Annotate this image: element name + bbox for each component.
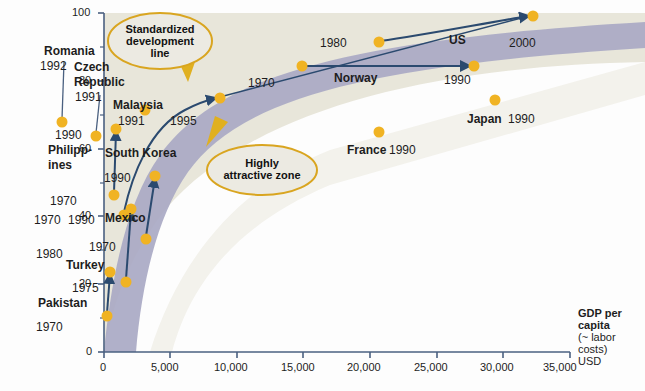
plot-area xyxy=(0,0,645,391)
x-tick-10000: 10,000 xyxy=(214,361,248,373)
label-france: France xyxy=(347,143,386,157)
marker-us-1980 xyxy=(374,37,385,48)
marker-us-2000 xyxy=(528,11,539,22)
x-tick-30000: 30,000 xyxy=(480,361,514,373)
x-axis-title-line3: (~ labor xyxy=(578,331,622,343)
marker-czech-1991 xyxy=(91,131,102,142)
marker-norway-1990 xyxy=(469,61,480,72)
label-czech-year: 1991 xyxy=(75,90,102,104)
marker-mexico-1970 xyxy=(141,234,152,245)
label-malaysia-year: 1991 xyxy=(118,114,145,128)
x-tick-35000: 35,000 xyxy=(543,361,577,373)
label-japan: Japan xyxy=(467,112,502,126)
marker-philippines-1970 xyxy=(109,190,120,201)
x-axis-title-line4: costs) xyxy=(578,343,622,355)
marker-france-1990 xyxy=(374,127,385,138)
marker-mexico-1990 xyxy=(150,171,161,182)
marker-japan-1990 xyxy=(490,95,501,106)
label-mexico-year-1990: 1990 xyxy=(104,171,131,185)
label-philippines-year-1970: 1970 xyxy=(50,194,77,208)
label-turkey: Turkey xyxy=(66,258,104,272)
standardized-callout-line1: Standardized xyxy=(110,23,210,35)
x-tick-15000: 15,000 xyxy=(281,361,315,373)
x-tick-0: 0 xyxy=(100,361,106,373)
standardized-callout-line3: line xyxy=(110,47,210,59)
gdp-vs-index-scatter-chart: 100 80 60 40 20 0 0 5,000 10,000 15,000 … xyxy=(0,0,645,391)
label-malaysia: Malaysia xyxy=(113,98,163,112)
label-norway: Norway xyxy=(334,71,377,85)
y-tick-0: 0 xyxy=(86,345,92,357)
marker-pakistan-1980 xyxy=(105,267,116,278)
label-romania-year: 1992 xyxy=(40,59,67,73)
x-axis-title-line1: GDP per xyxy=(578,307,622,319)
label-south-korea-year-1970: 1970 xyxy=(34,213,61,227)
x-tick-20000: 20,000 xyxy=(347,361,381,373)
label-pakistan: Pakistan xyxy=(38,296,87,310)
label-pakistan-year-1980: 1980 xyxy=(36,247,63,261)
label-norway-year-1990: 1990 xyxy=(444,73,471,87)
highly-attractive-zone-callout: Highly attractive zone xyxy=(209,157,315,181)
label-turkey-year-1975: 1975 xyxy=(72,281,99,295)
label-philippines-line1: Philipp- xyxy=(48,143,92,157)
attractive-callout-line1: Highly xyxy=(209,157,315,169)
attractive-callout-line2: attractive zone xyxy=(209,169,315,181)
label-south-korea: South Korea xyxy=(105,146,176,160)
x-tick-25000: 25,000 xyxy=(414,361,448,373)
label-philippines-year-1990: 1990 xyxy=(55,128,82,142)
standardized-development-callout: Standardized development line xyxy=(110,23,210,59)
label-us-year-1980: 1980 xyxy=(320,36,347,50)
x-axis-title: GDP per capita (~ labor costs) USD xyxy=(578,307,622,367)
y-tick-100: 100 xyxy=(72,6,90,18)
x-axis-title-line2: capita xyxy=(578,319,610,331)
label-france-year: 1990 xyxy=(389,143,416,157)
label-us: US xyxy=(449,33,466,47)
marker-romania-1992 xyxy=(57,117,68,128)
label-czech-republic-line1: Czech xyxy=(74,60,109,74)
marker-norway-1970 xyxy=(297,61,308,72)
x-axis-title-line5: USD xyxy=(578,355,622,367)
label-south-korea-year-1995: 1995 xyxy=(170,114,197,128)
label-pakistan-year-1970: 1970 xyxy=(36,320,63,334)
label-mexico-year-1970: 1970 xyxy=(89,240,116,254)
standardized-callout-line2: development xyxy=(110,35,210,47)
marker-turkey-1975 xyxy=(121,277,132,288)
label-turkey-year-1990: 1990 xyxy=(68,213,95,227)
marker-southkorea-1995 xyxy=(215,93,226,104)
label-philippines-line2: ines xyxy=(48,158,72,172)
label-mexico: Mexico xyxy=(105,211,146,225)
marker-pakistan-1970 xyxy=(102,311,113,322)
label-us-year-2000: 2000 xyxy=(509,36,536,50)
label-romania: Romania xyxy=(44,44,95,58)
label-japan-year: 1990 xyxy=(508,112,535,126)
x-tick-5000: 5,000 xyxy=(151,361,179,373)
label-norway-year-1970: 1970 xyxy=(248,76,275,90)
label-czech-republic-line2: Republic xyxy=(74,75,125,89)
